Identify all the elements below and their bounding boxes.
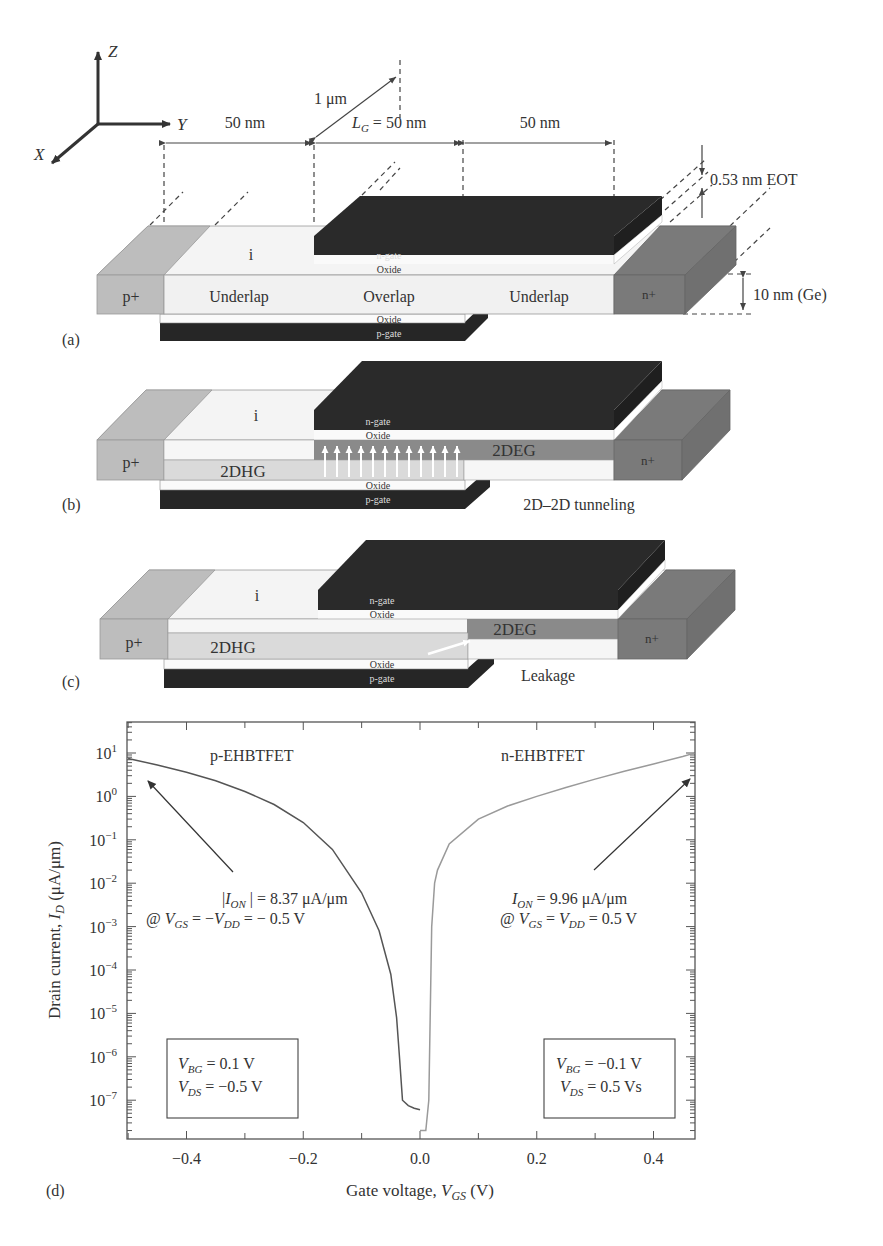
n-vbg-label: VBG = −0.1 V [556, 1055, 642, 1075]
y-tick-label: 10−6 [89, 1046, 117, 1066]
y-tick-label: 100 [96, 785, 118, 805]
panel-c-caption: Leakage [521, 667, 575, 685]
panel-a-device [97, 196, 736, 341]
panel-c-bottom-gate-label: p-gate [370, 673, 396, 684]
y-tick-label: 10−7 [89, 1089, 117, 1109]
figure-canvas: Z Y X 50 nm 1 μm LG = 50 nm 50 nm 0.53 [0, 0, 883, 1246]
x-tick-label: 0.0 [410, 1150, 430, 1167]
panel-b-intrinsic-label: i [254, 407, 259, 424]
panel-b-bottom-oxide-label: Oxide [366, 480, 391, 491]
panel-b-caption: 2D–2D tunneling [523, 496, 635, 514]
p-vbg-label: VBG = 0.1 V [178, 1055, 255, 1075]
n-annotation-arrow-icon [594, 779, 690, 870]
x-tick-label: −0.4 [172, 1150, 201, 1167]
panel-b-2deg-label: 2DEG [492, 441, 535, 460]
panel-a-top-oxide-label: Oxide [377, 264, 402, 275]
n-ehbtfet-label: n-EHBTFET [501, 747, 585, 764]
y-tick-label: 10−5 [89, 1002, 117, 1022]
x-axis-title: Gate voltage, VGS (V) [346, 1181, 494, 1203]
panel-a-source-label: p+ [122, 288, 139, 306]
n-ion-annotation: ION = 9.96 μA/μm [511, 890, 628, 910]
left-underlap-dimension: 50 nm [225, 114, 266, 131]
panel-b-source-label: p+ [122, 454, 139, 472]
y-tick-label: 10−2 [89, 872, 117, 892]
panel-a-top-gate-label: n-gate [377, 250, 403, 261]
plot-frame [127, 722, 695, 1139]
x-tick-label: 0.4 [644, 1150, 664, 1167]
y-tick-labels: 10110010−110−210−310−410−510−610−7 [89, 742, 117, 1109]
panel-a-bottom-oxide-label: Oxide [377, 314, 402, 325]
p-ehbtfet-label: p-EHBTFET [210, 747, 294, 765]
panel-c-source-label: p+ [125, 634, 142, 652]
panel-a-overlap: Overlap [363, 288, 415, 306]
y-tick-label: 10−4 [89, 959, 117, 979]
panel-b-drain-label: n+ [641, 453, 655, 468]
panel-c-bottom-oxide-label: Oxide [370, 659, 395, 670]
panel-a-intrinsic-label: i [249, 246, 254, 263]
panel-b-top-gate-label: n-gate [366, 416, 392, 427]
y-tick-label: 101 [96, 742, 118, 762]
panel-c-drain-label: n+ [645, 631, 659, 646]
panel-b-bottom-gate-label: p-gate [366, 494, 392, 505]
panel-b-top-oxide-label: Oxide [366, 430, 391, 441]
panel-d-tag: (d) [46, 1182, 65, 1200]
coordinate-axes-icon: Z Y X [33, 42, 188, 164]
panel-a-underlap-right: Underlap [509, 288, 569, 306]
panel-b-tag: (b) [62, 496, 81, 514]
panel-c-top-gate-label: n-gate [370, 595, 396, 606]
p-vgs-annotation: @ VGS = −VDD = − 0.5 V [146, 910, 305, 930]
width-dimension: 1 μm [314, 90, 348, 108]
panel-c-tag: (c) [62, 673, 80, 691]
gate-length-dimension: LG = 50 nm [351, 114, 427, 134]
n-vgs-annotation: @ VGS = VDD = 0.5 V [500, 910, 637, 930]
z-axis-label: Z [108, 42, 118, 61]
eot-dimension: 0.53 nm EOT [710, 171, 798, 188]
panel-a-bottom-gate-label: p-gate [377, 328, 403, 339]
y-tick-label: 10−1 [89, 829, 117, 849]
p-vds-label: VDS = −0.5 V [178, 1078, 263, 1098]
panel-a-tag: (a) [62, 331, 80, 349]
x-axis-label: X [33, 145, 45, 164]
right-underlap-dimension: 50 nm [520, 114, 561, 131]
n-ehbtfet-curve [420, 753, 694, 1130]
x-tick-labels: −0.4−0.20.00.20.4 [172, 1150, 664, 1167]
p-annotation-arrow-icon [148, 781, 233, 872]
x-tick-label: 0.2 [527, 1150, 547, 1167]
n-vds-label: VDS = 0.5 Vs [560, 1078, 642, 1098]
panel-c-intrinsic-label: i [255, 587, 260, 604]
y-axis-title: Drain current, ID (μA/μm) [45, 841, 67, 1019]
y-tick-label: 10−3 [89, 916, 117, 936]
panel-c-2dhg-label: 2DHG [210, 638, 255, 657]
x-tick-label: −0.2 [289, 1150, 318, 1167]
panel-c-top-oxide-label: Oxide [370, 609, 395, 620]
panel-a-drain-label: n+ [642, 287, 656, 302]
thickness-dimension: 10 nm (Ge) [753, 286, 827, 304]
panel-c-2deg-label: 2DEG [493, 620, 536, 639]
panel-c-device [100, 540, 735, 688]
panel-b-device [97, 361, 730, 509]
panel-b-2dhg-label: 2DHG [220, 462, 265, 481]
panel-a-underlap-left: Underlap [209, 288, 269, 306]
y-axis-label: Y [177, 115, 188, 134]
panel-d-chart: 10110010−110−210−310−410−510−610−7 −0.4−… [89, 722, 695, 1167]
p-ehbtfet-curve [128, 758, 420, 1109]
p-ion-annotation: |ION | = 8.37 μA/μm [222, 890, 348, 910]
